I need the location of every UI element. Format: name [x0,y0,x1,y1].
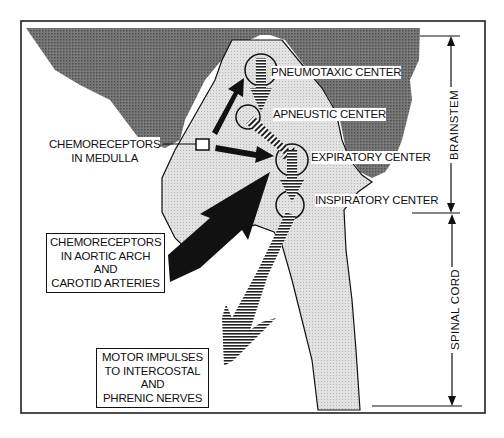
respiratory-control-diagram: PNEUMOTAXIC CENTER APNEUSTIC CENTER EXPI… [0,0,504,438]
aortic-line-4: CAROTID ARTERIES [50,277,161,291]
medulla-chemoreceptor-marker [196,139,209,150]
aortic-line-1: CHEMORECEPTORS [50,236,161,250]
aortic-line-2: IN AORTIC ARCH [50,250,161,264]
spinal-cord-label: SPINAL CORD [449,267,461,353]
motor-impulses-box: MOTOR IMPULSES TO INTERCOSTAL AND PHRENI… [96,348,209,408]
aortic-carotid-chemoreceptor-box: CHEMORECEPTORS IN AORTIC ARCH AND CAROTI… [46,233,165,293]
diagram-artwork [0,0,504,438]
medulla-chemoreceptor-label: CHEMORECEPTORS IN MEDULLA [49,137,160,165]
apneustic-center-label: APNEUSTIC CENTER [273,108,386,121]
motor-line-2: TO INTERCOSTAL [100,365,205,379]
motor-line-3: AND [100,378,205,392]
expiratory-center-label: EXPIRATORY CENTER [311,151,431,164]
motor-line-1: MOTOR IMPULSES [100,351,205,365]
medulla-label-line-1: CHEMORECEPTORS [49,137,160,151]
pneumotaxic-center-label: PNEUMOTAXIC CENTER [271,66,401,79]
aortic-line-3: AND [50,263,161,277]
brainstem-label: BRAINSTEM [448,87,460,163]
inspiratory-center-label: INSPIRATORY CENTER [315,194,438,207]
medulla-label-line-2: IN MEDULLA [49,151,160,165]
motor-line-4: PHRENIC NERVES [100,392,205,406]
